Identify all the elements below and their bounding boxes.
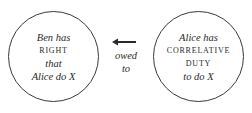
- right-circle-line4: to do X: [183, 70, 213, 83]
- right-holder-circle: Ben has right that Alice do X: [8, 11, 99, 102]
- left-circle-line2: right: [39, 44, 67, 57]
- connector-label-line1: owed: [108, 49, 144, 62]
- left-circle-line1: Ben has: [37, 31, 71, 44]
- left-circle-line4: Alice do X: [32, 70, 76, 83]
- duty-bearer-circle: Alice has correlative duty to do X: [153, 11, 244, 102]
- connector-label: owed to: [108, 49, 144, 75]
- right-circle-line3: duty: [186, 57, 211, 70]
- right-circle-line1: Alice has: [179, 31, 218, 44]
- arrow-left-icon: [112, 38, 136, 46]
- left-circle-line3: that: [45, 57, 61, 70]
- connector-label-line2: to: [108, 62, 144, 75]
- right-circle-line2: correlative: [167, 44, 230, 57]
